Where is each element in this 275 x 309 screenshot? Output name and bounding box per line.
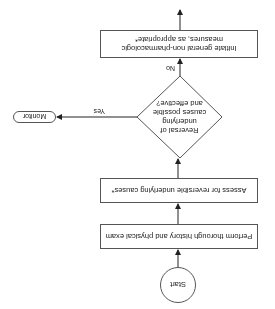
step-history-exam-label: Perform thorough history and physical ex… bbox=[106, 232, 253, 241]
step-assess-causes-label: Assess for reversible underlying causes* bbox=[111, 186, 246, 195]
step-assess-causes: Assess for reversible underlying causes* bbox=[100, 178, 258, 203]
no-label: No bbox=[166, 65, 175, 72]
yes-label: Yes bbox=[94, 108, 105, 115]
start-node: Start bbox=[160, 267, 196, 303]
step-initiate-measures-label: Initiate general non-pharmacologic measu… bbox=[105, 35, 253, 53]
monitor-label: Monitor bbox=[23, 113, 46, 122]
step-initiate-measures: Initiate general non-pharmacologic measu… bbox=[100, 30, 258, 58]
step-history-exam: Perform thorough history and physical ex… bbox=[100, 224, 258, 249]
flowchart: Start Perform thorough history and physi… bbox=[0, 0, 275, 309]
decision-label: Reversal of underlying causes possible a… bbox=[152, 99, 207, 135]
start-label: Start bbox=[170, 281, 186, 290]
monitor-node: Monitor bbox=[13, 111, 56, 123]
